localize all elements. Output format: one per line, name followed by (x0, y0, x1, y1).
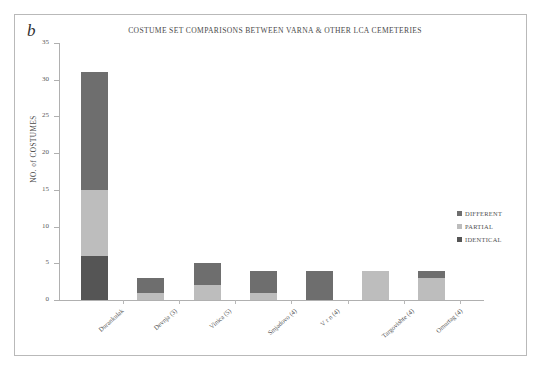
bar-segment-partial (250, 293, 277, 300)
y-tick-mark (54, 116, 59, 117)
bar-group (306, 43, 333, 300)
x-tick-mark (404, 300, 405, 304)
y-tick-label: 30 (23, 76, 49, 83)
figure-frame: b COSTUME SET COMPARISONS BETWEEN VARNA … (14, 14, 527, 356)
y-tick-label: 35 (23, 39, 49, 46)
bar-group (81, 43, 108, 300)
x-tick-mark (348, 300, 349, 304)
legend-swatch-icon (457, 237, 462, 242)
bar-segment-different (81, 72, 108, 189)
y-tick-mark (54, 227, 59, 228)
y-tick-label: 0 (23, 296, 49, 303)
x-tick-mark (235, 300, 236, 304)
bar-segment-partial (418, 278, 445, 300)
x-tick-mark (291, 300, 292, 304)
y-tick-label: 5 (23, 259, 49, 266)
y-tick-mark (54, 80, 59, 81)
x-tick-mark (123, 300, 124, 304)
x-tick-mark (179, 300, 180, 304)
legend: DIFFERENTPARTIALIDENTICAL (457, 207, 502, 246)
y-tick-mark (54, 263, 59, 264)
y-tick-mark (54, 190, 59, 191)
y-tick-label: 10 (23, 223, 49, 230)
legend-label: DIFFERENT (465, 210, 502, 217)
legend-item[interactable]: PARTIAL (457, 220, 502, 233)
legend-swatch-icon (457, 211, 462, 216)
bar-segment-partial (137, 293, 164, 300)
y-tick-mark (54, 153, 59, 154)
legend-swatch-icon (457, 224, 462, 229)
bar-segment-partial (81, 190, 108, 256)
plot-area (60, 43, 484, 300)
y-tick-label: 25 (23, 112, 49, 119)
x-axis-label: Omurtag (4) (434, 307, 463, 334)
bar-group (418, 43, 445, 300)
y-tick-mark (54, 43, 59, 44)
bar-segment-different (418, 271, 445, 278)
bar-segment-partial (362, 271, 389, 300)
bar-group (137, 43, 164, 300)
legend-item[interactable]: DIFFERENT (457, 207, 502, 220)
legend-label: IDENTICAL (465, 236, 502, 243)
x-axis-label: Smjadovo (4) (267, 307, 299, 336)
bar-segment-identical (81, 256, 108, 300)
x-tick-mark (460, 300, 461, 304)
bar-segment-different (306, 271, 333, 300)
x-axis-label: Devnja (3) (152, 307, 178, 331)
bar-group (362, 43, 389, 300)
x-axis-label: Durankulak (97, 307, 125, 333)
x-axis-label: Vinica (5) (208, 307, 232, 330)
y-tick-label: 15 (23, 186, 49, 193)
y-tick-label: 20 (23, 149, 49, 156)
legend-label: PARTIAL (465, 223, 493, 230)
bar-segment-partial (194, 285, 221, 300)
x-axis-label: Targovishte (4) (380, 307, 415, 339)
bar-segment-different (137, 278, 164, 293)
plot-wrapper: NO. of COSTUMES 05101520253035 Durankula… (15, 15, 528, 357)
bar-segment-different (250, 271, 277, 293)
x-axis-label: V r n (4) (319, 307, 341, 327)
legend-item[interactable]: IDENTICAL (457, 233, 502, 246)
bar-group (194, 43, 221, 300)
bar-group (250, 43, 277, 300)
bar-segment-different (194, 263, 221, 285)
y-tick-mark (54, 300, 59, 301)
